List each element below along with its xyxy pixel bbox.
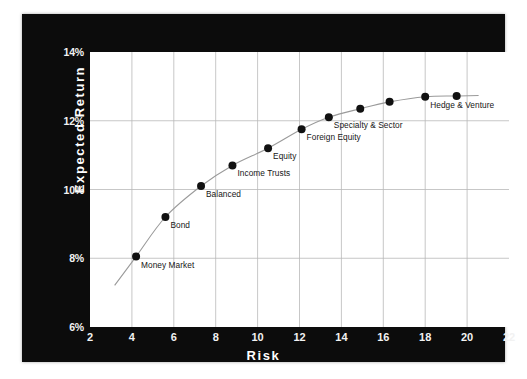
data-point-label: Balanced xyxy=(206,189,241,199)
x-axis-title: Risk xyxy=(22,348,505,363)
plot-area: Money MarketBondBalancedIncome TrustsEqu… xyxy=(90,52,509,327)
gridlines xyxy=(90,52,509,327)
data-point xyxy=(356,105,364,113)
y-axis-tick: 14% xyxy=(26,46,84,58)
x-axis-tick: 4 xyxy=(112,331,152,343)
x-axis-tick: 10 xyxy=(238,331,278,343)
x-axis-tick: 20 xyxy=(447,331,487,343)
data-point xyxy=(264,144,272,152)
y-axis-tick: 8% xyxy=(26,252,84,264)
data-point xyxy=(325,113,333,121)
plot-svg xyxy=(90,52,509,327)
data-point-label: Hedge & Venture xyxy=(430,100,494,110)
data-point xyxy=(228,161,236,169)
x-axis-tick: 18 xyxy=(405,331,445,343)
x-axis-tick: 16 xyxy=(363,331,403,343)
data-point xyxy=(421,93,429,101)
data-point-label: Foreign Equity xyxy=(307,132,361,142)
x-axis-tick: 8 xyxy=(196,331,236,343)
data-point xyxy=(161,213,169,221)
x-axis-tick: 2 xyxy=(70,331,110,343)
x-axis-tick: 6 xyxy=(154,331,194,343)
x-axis-tick: 14 xyxy=(321,331,361,343)
data-point-label: Income Trusts xyxy=(237,168,290,178)
data-point-markers xyxy=(132,92,461,261)
data-point-label: Money Market xyxy=(141,260,194,270)
x-axis-tick: 22 xyxy=(489,331,527,343)
y-axis-tick: 10% xyxy=(26,184,84,196)
data-point xyxy=(298,125,306,133)
data-point-label: Specialty & Sector xyxy=(334,120,403,130)
data-point xyxy=(132,253,140,261)
efficient-frontier-curve xyxy=(115,96,479,286)
chart-frame: Expected Return Risk 6%8%10%12%14% 24681… xyxy=(22,14,505,362)
y-axis-tick: 12% xyxy=(26,115,84,127)
data-point-label: Bond xyxy=(170,220,190,230)
x-axis-tick: 12 xyxy=(280,331,320,343)
data-point xyxy=(386,98,394,106)
data-point xyxy=(197,182,205,190)
y-axis-title: Expected Return xyxy=(72,35,87,225)
data-point-label: Equity xyxy=(273,151,296,161)
